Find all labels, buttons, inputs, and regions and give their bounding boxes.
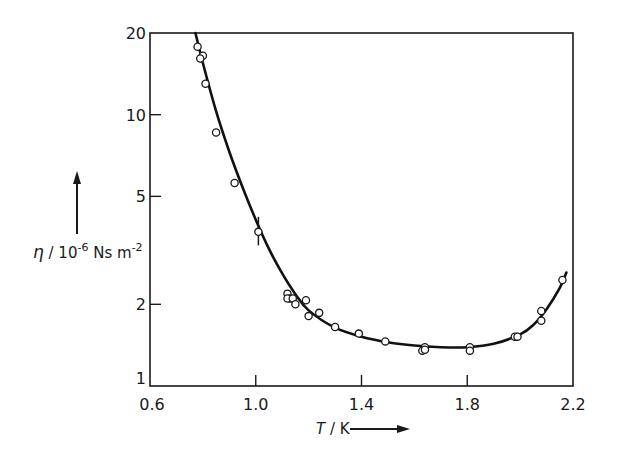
data-point-marker xyxy=(514,333,521,340)
x-tick-label: 1.8 xyxy=(455,395,480,414)
data-point-marker xyxy=(255,228,262,235)
y-axis-symbol: η xyxy=(33,242,44,262)
viscosity-chart: 0.61.01.41.82.2 1251020 η / 10-6 Ns m-2 … xyxy=(0,0,617,455)
fit-line xyxy=(195,33,566,348)
y-tick-label: 1 xyxy=(136,369,146,388)
data-point-marker xyxy=(292,301,299,308)
data-point-marker xyxy=(194,43,201,50)
x-tick-label: 2.2 xyxy=(560,395,585,414)
x-tick-label: 1.4 xyxy=(349,395,374,414)
y-tick-label: 2 xyxy=(136,295,146,314)
y-axis-title: η / 10-6 Ns m-2 xyxy=(33,171,143,262)
data-point-marker xyxy=(538,317,545,324)
x-axis-arrowhead-icon xyxy=(397,425,410,433)
data-points xyxy=(194,43,566,354)
data-point-marker xyxy=(202,80,209,87)
data-point-marker xyxy=(305,312,312,319)
y-tick-label: 5 xyxy=(136,187,146,206)
y-axis-arrowhead-icon xyxy=(73,171,81,184)
x-axis-ticks: 0.61.01.41.82.2 xyxy=(139,375,585,414)
data-point-marker xyxy=(355,330,362,337)
y-tick-label: 20 xyxy=(126,24,146,43)
x-tick-label: 0.6 xyxy=(139,395,164,414)
x-tick-label: 1.0 xyxy=(243,395,268,414)
fit-curve xyxy=(195,33,566,348)
x-axis-title: T / K xyxy=(316,420,410,438)
y-tick-label: 10 xyxy=(126,106,146,125)
data-point-marker xyxy=(231,179,238,186)
data-point-marker xyxy=(382,338,389,345)
data-point-marker xyxy=(466,347,473,354)
data-point-marker xyxy=(331,323,338,330)
data-point-marker xyxy=(559,276,566,283)
data-point-marker xyxy=(538,307,545,314)
data-point-marker xyxy=(302,297,309,304)
data-point-marker xyxy=(421,346,428,353)
y-axis-ticks: 1251020 xyxy=(126,24,161,388)
data-point-marker xyxy=(316,309,323,316)
data-point-marker xyxy=(197,55,204,62)
data-point-marker xyxy=(212,129,219,136)
svg-text:η / 10-6 Ns m-2: η / 10-6 Ns m-2 xyxy=(33,241,143,262)
svg-text:T / K: T / K xyxy=(316,420,351,438)
